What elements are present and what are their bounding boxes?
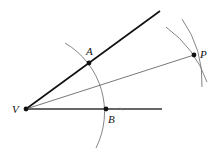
diagram-canvas: V A B P xyxy=(0,0,220,154)
point-V xyxy=(24,107,29,112)
label-V: V xyxy=(12,103,20,115)
label-B: B xyxy=(108,113,115,125)
point-A xyxy=(87,61,92,66)
arc-centered-V xyxy=(65,43,105,148)
bisector-line xyxy=(26,55,194,109)
construction-svg: V A B P xyxy=(0,0,220,154)
label-A: A xyxy=(85,45,93,57)
point-B xyxy=(104,107,109,112)
upper-ray xyxy=(26,11,160,109)
point-P xyxy=(192,53,197,58)
label-P: P xyxy=(199,48,207,60)
